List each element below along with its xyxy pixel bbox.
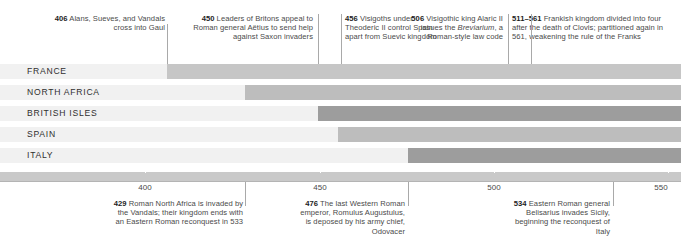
- annotation-511-561: 511–561 Frankish kingdom divided into fo…: [512, 14, 678, 42]
- leader-line-534: [613, 182, 614, 206]
- annotation-429: 429 Roman North Africa is invaded by the…: [110, 199, 243, 227]
- timeline-rows: FRANCE NORTH AFRICA BRITISH ISLES SPAIN …: [0, 64, 681, 170]
- axis-band: [0, 172, 681, 181]
- bar-spain: [338, 127, 681, 142]
- annotation-429-year: 429: [114, 199, 127, 208]
- leader-line-476: [408, 182, 409, 206]
- annotation-506-year: 506: [411, 14, 424, 23]
- tick-label-550: 550: [641, 183, 681, 192]
- tick-mark-550: [668, 168, 669, 173]
- row-label-british-isles: BRITISH ISLES: [27, 106, 97, 121]
- annotation-456-year: 456: [345, 14, 358, 23]
- row-label-north-africa: NORTH AFRICA: [27, 85, 100, 100]
- row-label-spain: SPAIN: [27, 127, 56, 142]
- row-label-italy: ITALY: [27, 148, 53, 163]
- tick-mark-500: [494, 168, 495, 173]
- annotation-506: 506 Visigothic king Alaric II issues the…: [395, 14, 503, 42]
- leader-line-450: [318, 14, 319, 64]
- annotation-450-year: 450: [202, 14, 215, 23]
- tick-mark-400: [145, 168, 146, 173]
- annotation-406-text: Alans, Sueves, and Vandals cross into Ga…: [68, 14, 165, 32]
- annotation-450: 450 Leaders of Britons appeal to Roman g…: [178, 14, 313, 42]
- bar-british-isles: [318, 106, 681, 121]
- leader-line-406: [167, 24, 168, 64]
- annotation-429-text: Roman North Africa is invaded by the Van…: [116, 199, 244, 226]
- timeline-infographic: 406 Alans, Sueves, and Vandals cross int…: [0, 0, 681, 250]
- row-label-france: FRANCE: [27, 64, 67, 79]
- bar-italy: [408, 148, 681, 163]
- annotation-511-561-year: 511–561: [512, 14, 542, 23]
- annotation-476: 476 The last Western Roman emperor, Romu…: [300, 199, 405, 236]
- annotation-406: 406 Alans, Sueves, and Vandals cross int…: [52, 14, 165, 32]
- bar-north-africa: [245, 85, 681, 100]
- annotation-534-text: Eastern Roman general Belisarius invades…: [515, 199, 610, 236]
- annotation-506-italic: Breviarium: [458, 23, 495, 32]
- annotation-406-year: 406: [55, 14, 68, 23]
- annotation-534-year: 534: [514, 199, 527, 208]
- annotation-534: 534 Eastern Roman general Belisarius inv…: [503, 199, 610, 236]
- tick-label-450: 450: [300, 183, 340, 192]
- annotation-476-year: 476: [305, 199, 318, 208]
- bar-france: [167, 64, 681, 79]
- leader-line-506: [508, 14, 509, 64]
- leader-line-511: [531, 14, 532, 64]
- leader-line-456: [341, 14, 342, 64]
- leader-line-429: [245, 182, 246, 206]
- axis-line: [0, 181, 681, 182]
- tick-label-500: 500: [474, 183, 514, 192]
- tick-mark-450: [320, 168, 321, 173]
- tick-label-400: 400: [125, 183, 165, 192]
